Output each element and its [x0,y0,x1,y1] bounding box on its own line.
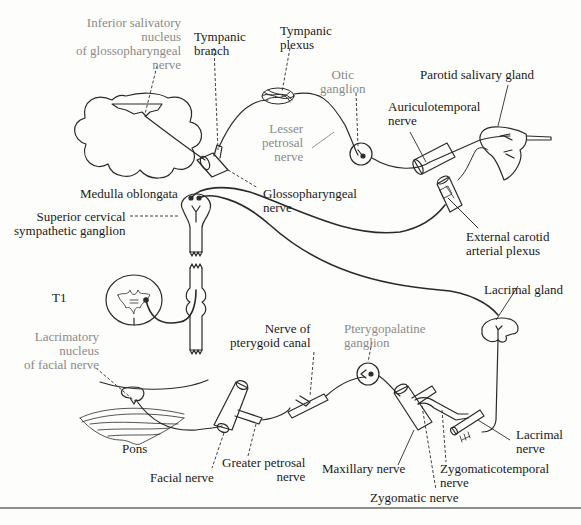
medulla-fourth-ventricle [112,104,162,116]
label-pterygopalatine-ganglion: Pterygopalatine ganglion [344,322,426,350]
label-lesser-petrosal-nerve: Lesser petrosal nerve [262,122,303,164]
label-external-carotid-plexus: External carotid arterial plexus [466,230,549,258]
label-medulla-oblongata: Medulla oblongata [80,187,178,201]
label-facial-nerve: Facial nerve [150,471,214,485]
label-lacrimal-nerve: Lacrimal nerve [516,428,563,456]
leader-greater-petrosal [248,424,256,456]
label-otic-ganglion: Otic ganglion [320,68,366,96]
label-parotid-salivary-gland: Parotid salivary gland [420,68,534,82]
label-lacrimal-gland: Lacrimal gland [484,283,563,297]
external-carotid-plexus [436,148,488,212]
label-tympanic-plexus: Tympanic plexus [280,24,332,52]
label-maxillary-nerve: Maxillary nerve [322,462,405,476]
leader-glossopharyngeal [228,170,258,188]
label-t1: T1 [52,291,66,305]
pterygoid-canal-cylinder [288,394,328,418]
anatomy-diagram: Inferior salivatory nucleus of glossopha… [0,0,581,525]
label-nerve-of-pterygoid-canal: Nerve of pterygoid canal [230,322,311,350]
leader-parotid [498,85,508,126]
leader-otic-ganglion [356,93,358,146]
medulla-oblongata-shape [75,93,202,178]
auriculotemporal-cylinder [411,143,455,176]
superior-cervical-ganglion [181,194,210,354]
label-lacrimatory-nucleus: Lacrimatory nucleus of facial nerve [24,330,99,372]
leader-tympanic-branch [214,48,218,150]
label-superior-cervical-ganglion: Superior cervical sympathetic ganglion [14,210,126,238]
leader-lacrimatory [96,368,136,402]
leader-nerve-pterygoid [310,352,314,396]
leader-tympanic-plexus [282,48,290,92]
leader-external-carotid [448,198,478,228]
tympanic-branch-cylinder [197,145,228,177]
leader-maxillary [398,430,414,465]
label-zygomatic-nerve: Zygomatic nerve [370,491,458,505]
lacrimal-gland-shape [482,318,518,342]
leader-zygomatic [422,406,436,490]
spinal-cord-t1 [106,275,162,325]
label-tympanic-branch: Tympanic branch [194,30,246,58]
label-zygomaticotemporal-nerve: Zygomaticotemporal nerve [440,462,549,490]
label-greater-petrosal-nerve: Greater petrosal nerve [222,456,305,484]
label-pons: Pons [122,442,147,456]
bottom-divider [0,507,581,509]
tympanic-plexus [262,88,294,104]
lacrimal-nerve-cylinder [449,410,484,442]
leader-zygomaticotemporal [442,410,446,462]
label-inferior-salivatory-nucleus: Inferior salivatory nucleus of glossopha… [76,16,181,72]
label-glossopharyngeal-nerve: Glossopharyngeal nerve [263,187,357,215]
pterygopalatine-ganglion [357,363,379,385]
leader-lacrimal-nerve [478,420,510,440]
leader-lesser-petrosal [312,132,334,148]
leader-inferior-salivatory [145,66,157,114]
label-auriculotemporal-nerve: Auriculotemporal nerve [388,100,480,128]
